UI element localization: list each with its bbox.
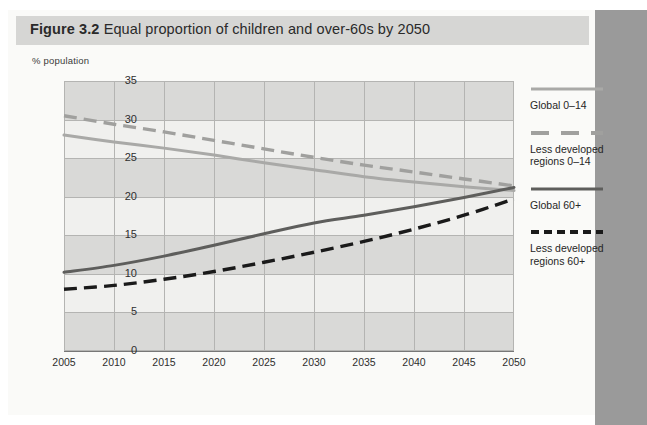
x-tick-label: 2030 <box>291 356 337 368</box>
figure-page: Figure 3.2 Equal proportion of children … <box>0 0 647 425</box>
y-tick-label: 0 <box>105 344 137 356</box>
figure-title-text: Equal proportion of children and over-60… <box>104 21 431 37</box>
x-tick-label: 2015 <box>141 356 187 368</box>
chart-area: % population 35302520151050 200520102015… <box>16 52 589 382</box>
y-tick-label: 30 <box>105 113 137 125</box>
figure-number: Figure 3.2 <box>30 21 100 37</box>
legend-swatch-icon <box>530 126 604 140</box>
page-margin-band-top <box>595 0 647 10</box>
legend-label: Global 0–14 <box>530 99 620 112</box>
y-axis-label: % population <box>32 55 89 66</box>
legend-label: Less developed regions 60+ <box>530 242 620 267</box>
figure-title-band: Figure 3.2 Equal proportion of children … <box>16 16 589 45</box>
figure-title: Figure 3.2 Equal proportion of children … <box>30 21 430 37</box>
x-tick-label: 2040 <box>391 356 437 368</box>
x-tick-label: 2050 <box>491 356 537 368</box>
y-tick-label: 35 <box>105 74 137 86</box>
x-tick-label: 2005 <box>41 356 87 368</box>
x-tick-label: 2010 <box>91 356 137 368</box>
y-tick-label: 25 <box>105 151 137 163</box>
x-tick-label: 2020 <box>191 356 237 368</box>
legend-label: Less developed regions 0–14 <box>530 143 620 168</box>
y-tick-label: 5 <box>105 305 137 317</box>
x-tick-label: 2025 <box>241 356 287 368</box>
legend-swatch-icon <box>530 225 604 239</box>
legend-item[interactable]: Global 0–14 <box>530 82 620 112</box>
legend-label: Global 60+ <box>530 199 620 212</box>
x-tick-label: 2035 <box>341 356 387 368</box>
legend-swatch-icon <box>530 82 604 96</box>
legend-item[interactable]: Global 60+ <box>530 182 620 212</box>
y-tick-label: 20 <box>105 190 137 202</box>
legend-item[interactable]: Less developed regions 60+ <box>530 225 620 267</box>
legend-item[interactable]: Less developed regions 0–14 <box>530 126 620 168</box>
legend-swatch-icon <box>530 182 604 196</box>
y-tick-label: 10 <box>105 267 137 279</box>
x-tick-label: 2045 <box>441 356 487 368</box>
chart-legend: Global 0–14Less developed regions 0–14Gl… <box>530 82 620 281</box>
y-tick-label: 15 <box>105 228 137 240</box>
